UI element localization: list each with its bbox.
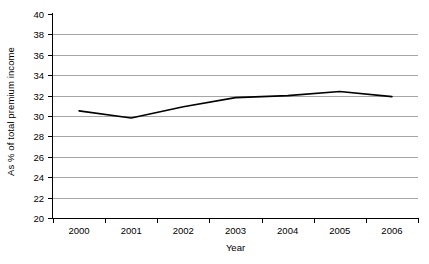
x-tick-mark <box>53 219 54 223</box>
y-axis-title: As % of total premium income <box>0 0 20 222</box>
y-tick-label: 24 <box>33 172 44 183</box>
y-tick-label: 36 <box>33 49 44 60</box>
data-series-line <box>79 92 392 119</box>
x-tick-label: 2004 <box>277 225 298 236</box>
x-tick-label: 2003 <box>225 225 246 236</box>
y-tick-label: 22 <box>33 192 44 203</box>
y-axis-tick-labels: 2022242628303234363840 <box>20 14 48 218</box>
x-tick-mark <box>418 219 419 223</box>
x-tick-mark <box>366 219 367 223</box>
x-tick-mark <box>262 219 263 223</box>
x-tick-label: 2005 <box>329 225 350 236</box>
series-line-svg <box>53 14 418 218</box>
x-tick-label: 2002 <box>173 225 194 236</box>
y-tick-label: 34 <box>33 70 44 81</box>
x-axis-title: Year <box>53 242 418 253</box>
y-tick-label: 26 <box>33 151 44 162</box>
x-tick-mark <box>105 219 106 223</box>
y-axis-title-text: As % of total premium income <box>5 47 16 176</box>
x-tick-mark <box>314 219 315 223</box>
line-chart: As % of total premium income 20222426283… <box>0 0 429 264</box>
x-tick-mark <box>157 219 158 223</box>
x-axis-tick-labels: 2000200120022003200420052006 <box>53 225 418 239</box>
x-tick-label: 2001 <box>121 225 142 236</box>
y-tick-label: 32 <box>33 90 44 101</box>
y-tick-label: 30 <box>33 111 44 122</box>
y-tick-label: 38 <box>33 29 44 40</box>
y-tick-label: 28 <box>33 131 44 142</box>
x-tick-label: 2006 <box>381 225 402 236</box>
x-tick-mark <box>209 219 210 223</box>
plot-area <box>53 14 418 218</box>
y-tick-label: 40 <box>33 9 44 20</box>
y-tick-label: 20 <box>33 213 44 224</box>
x-axis-tick-marks <box>53 219 418 224</box>
x-tick-label: 2000 <box>68 225 89 236</box>
